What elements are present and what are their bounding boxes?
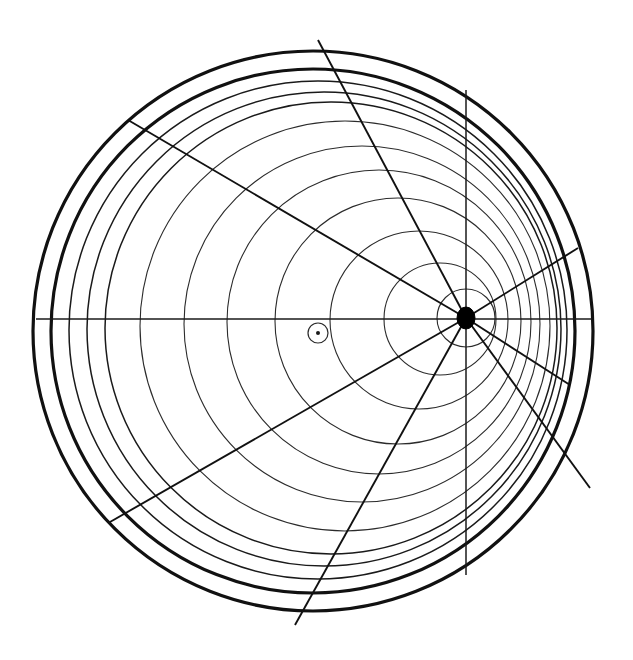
- eccentric-node-marker: [457, 307, 475, 329]
- center-marker-dot: [316, 331, 320, 335]
- figure-background: [0, 0, 633, 660]
- diagram-canvas: [0, 0, 633, 660]
- figure-root: [0, 0, 633, 660]
